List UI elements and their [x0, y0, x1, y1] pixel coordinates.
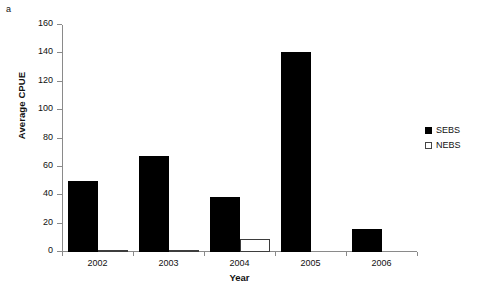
x-axis-tick-label-2005: 2005: [275, 258, 346, 269]
y-axis-tick-label: 160: [38, 18, 53, 29]
bar-sebs-2006: [352, 229, 382, 252]
x-axis-tick-label-2004: 2004: [204, 258, 275, 269]
bar-group: [204, 25, 275, 252]
y-axis-tick-label: 140: [38, 46, 53, 57]
bar-sebs-2005: [281, 52, 311, 252]
x-axis-tick: [346, 252, 347, 256]
bar-group: [275, 25, 346, 252]
x-axis-tick: [275, 252, 276, 256]
bar-nebs-2002: [98, 250, 128, 252]
x-axis-tick: [417, 252, 418, 256]
y-axis-tick-label: 0: [48, 245, 53, 256]
plot-area: 020406080100120140160 200220032004200520…: [62, 25, 417, 252]
legend-swatch-open-square-icon: [425, 142, 432, 149]
bar-sebs-2002: [68, 181, 98, 252]
panel-letter-label: a: [6, 4, 11, 14]
x-axis-title: Year: [62, 272, 417, 283]
bar-sebs-2003: [139, 156, 169, 252]
bar-nebs-2004: [240, 239, 270, 252]
x-axis-tick: [133, 252, 134, 256]
y-axis-tick-label: 20: [43, 217, 53, 228]
legend-item-sebs: SEBS: [425, 123, 461, 138]
figure-panel-a: a Average CPUE 020406080100120140160 200…: [0, 0, 492, 296]
y-axis-tick-label: 40: [43, 188, 53, 199]
x-axis-tick-label-2003: 2003: [133, 258, 204, 269]
chart-legend: SEBS NEBS: [425, 123, 461, 153]
x-axis-tick-label-2006: 2006: [346, 258, 417, 269]
x-axis-tick-label-2002: 2002: [62, 258, 133, 269]
x-axis-tick: [62, 252, 63, 256]
y-axis-tick-label: 100: [38, 103, 53, 114]
bar-group: [346, 25, 417, 252]
legend-label-nebs: NEBS: [436, 140, 461, 151]
bar-group: [133, 25, 204, 252]
y-axis-title: Average CPUE: [16, 51, 27, 161]
x-axis-tick: [204, 252, 205, 256]
y-axis-tick-label: 120: [38, 75, 53, 86]
legend-swatch-filled-square-icon: [425, 127, 432, 134]
bar-group: [62, 25, 133, 252]
legend-label-sebs: SEBS: [436, 125, 460, 136]
y-axis-tick-label: 80: [43, 132, 53, 143]
bar-sebs-2004: [210, 197, 240, 252]
legend-item-nebs: NEBS: [425, 138, 461, 153]
bar-nebs-2003: [169, 250, 199, 252]
y-axis-tick-label: 60: [43, 160, 53, 171]
